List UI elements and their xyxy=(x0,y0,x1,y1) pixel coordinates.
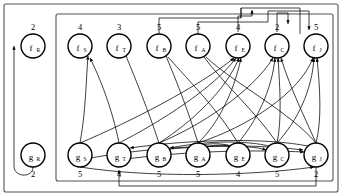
node-subscript-label: C xyxy=(281,47,285,53)
node-base-label: f xyxy=(195,43,198,53)
node-base-label: f xyxy=(274,43,277,53)
node-subscript-label: S xyxy=(84,47,87,53)
node-subscript-label: R xyxy=(37,47,41,53)
node-weight-label: 3 xyxy=(117,22,121,32)
outer-frame xyxy=(4,4,338,192)
node-circle[interactable] xyxy=(226,34,250,58)
node-base-label: g xyxy=(29,152,34,162)
node-weight-label: 2 xyxy=(31,169,35,179)
node-subscript-label: A xyxy=(202,47,206,53)
graph-node-f-b[interactable]: fB5 xyxy=(147,22,171,58)
graph-node-f-c[interactable]: fC2 xyxy=(265,22,289,58)
node-base-label: g xyxy=(312,152,317,162)
node-base-label: g xyxy=(234,152,239,162)
node-subscript-label: S xyxy=(84,156,87,162)
diagram-canvas: fR2fS4fT3fB5fA5fE4fC2fJ5gR2gS5gT4gB5gA5g… xyxy=(0,0,342,196)
node-base-label: f xyxy=(156,43,159,53)
node-weight-label: 5 xyxy=(157,169,161,179)
node-base-label: g xyxy=(194,152,199,162)
node-weight-label: 4 xyxy=(78,22,83,32)
node-weight-label: 2 xyxy=(31,22,35,32)
graph-node-g-a[interactable]: gA5 xyxy=(186,143,210,179)
edge-group-top-bus xyxy=(159,8,309,34)
node-weight-label: 5 xyxy=(196,169,200,179)
node-subscript-label: B xyxy=(163,156,167,162)
node-base-label: g xyxy=(76,152,81,162)
node-circle[interactable] xyxy=(265,34,289,58)
graph-node-g-r[interactable]: gR2 xyxy=(21,143,45,179)
graph-node-f-a[interactable]: fA5 xyxy=(186,22,210,58)
node-base-label: g xyxy=(155,152,160,162)
node-circle[interactable] xyxy=(107,34,131,58)
node-base-label: f xyxy=(313,43,316,53)
graph-node-g-c[interactable]: gC5 xyxy=(265,143,289,179)
graph-node-f-s[interactable]: fS4 xyxy=(68,22,92,58)
node-base-label: f xyxy=(30,43,33,53)
graph-node-f-r[interactable]: fR2 xyxy=(21,22,45,58)
node-subscript-label: C xyxy=(281,156,285,162)
node-weight-label: 5 xyxy=(275,169,279,179)
nodes-layer: fR2fS4fT3fB5fA5fE4fC2fJ5gR2gS5gT4gB5gA5g… xyxy=(21,22,328,179)
node-circle[interactable] xyxy=(147,34,171,58)
node-circle[interactable] xyxy=(186,34,210,58)
node-circle[interactable] xyxy=(304,34,328,58)
bipartite-graph-diagram: fR2fS4fT3fB5fA5fE4fC2fJ5gR2gS5gT4gB5gA5g… xyxy=(0,0,342,196)
graph-node-f-t[interactable]: fT3 xyxy=(107,22,131,58)
graph-node-g-s[interactable]: gS5 xyxy=(68,143,92,179)
node-base-label: g xyxy=(115,152,120,162)
graph-node-f-e[interactable]: fE4 xyxy=(226,22,250,58)
node-subscript-label: R xyxy=(37,156,41,162)
node-weight-label: 4 xyxy=(117,169,122,179)
node-circle[interactable] xyxy=(21,34,45,58)
node-weight-label: 5 xyxy=(78,169,82,179)
node-subscript-label: A xyxy=(202,156,206,162)
node-weight-label: 5 xyxy=(157,22,161,32)
node-weight-label: 4 xyxy=(236,169,241,179)
edge-group-bottom-bus xyxy=(119,167,316,186)
node-base-label: g xyxy=(273,152,278,162)
node-weight-label: 4 xyxy=(236,22,241,32)
node-subscript-label: B xyxy=(163,47,167,53)
graph-node-g-j[interactable]: gJ2 xyxy=(304,143,328,179)
node-circle[interactable] xyxy=(68,34,92,58)
node-base-label: f xyxy=(116,43,119,53)
node-base-label: f xyxy=(77,43,80,53)
node-weight-label: 5 xyxy=(196,22,200,32)
node-weight-label: 2 xyxy=(314,169,318,179)
graph-node-f-j[interactable]: fJ5 xyxy=(304,22,328,58)
node-weight-label: 5 xyxy=(314,22,318,32)
node-base-label: f xyxy=(235,43,238,53)
graph-node-g-t[interactable]: gT4 xyxy=(107,143,131,179)
node-weight-label: 2 xyxy=(275,22,279,32)
